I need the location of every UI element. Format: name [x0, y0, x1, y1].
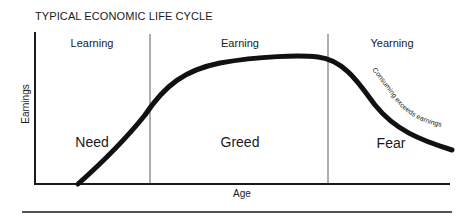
phase-header-earning: Earning	[221, 37, 259, 49]
phase-header-learning: Learning	[71, 37, 114, 49]
emotion-greed: Greed	[221, 134, 260, 150]
emotion-need: Need	[75, 134, 108, 150]
life-cycle-chart: Learning Earning Yearning Need Greed Fea…	[0, 0, 468, 216]
earnings-curve	[78, 56, 452, 184]
emotion-fear: Fear	[377, 135, 406, 151]
x-axis-label: Age	[233, 188, 251, 199]
annotation-consuming: Consuming exceeds earnings	[371, 66, 443, 128]
y-axis-label: Earnings	[20, 84, 31, 123]
phase-header-yearning: Yearning	[370, 37, 413, 49]
